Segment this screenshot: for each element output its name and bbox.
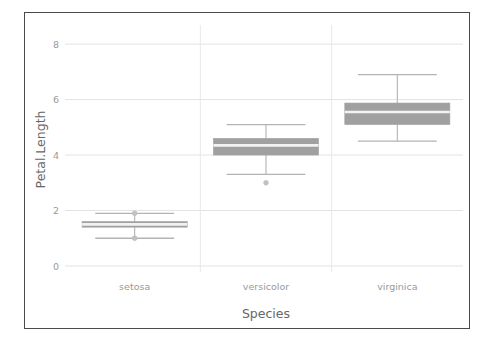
box-iqr (213, 138, 318, 155)
x-tick-label-setosa: setosa (119, 281, 150, 292)
x-tick-label-versicolor: versicolor (243, 281, 289, 292)
y-tick-label: 4 (53, 150, 59, 161)
box-group-setosa (82, 211, 187, 241)
outlier-point (132, 211, 137, 216)
x-tick-label-virginica: virginica (377, 281, 417, 292)
outlier-point (264, 180, 269, 185)
box-group-versicolor (213, 125, 318, 186)
y-tick-label: 2 (53, 205, 59, 216)
box-iqr (345, 103, 450, 124)
y-axis-title: Petal.Length (33, 111, 48, 189)
figure-frame: 02468Petal.Lengthsetosaversicolorvirgini… (24, 12, 470, 329)
y-tick-label: 0 (53, 261, 59, 272)
y-tick-label: 6 (53, 94, 59, 105)
outlier-point (132, 236, 137, 241)
boxplot-chart: 02468Petal.Lengthsetosaversicolorvirgini… (25, 13, 471, 330)
box-group-virginica (345, 75, 450, 142)
x-axis-title: Species (242, 306, 290, 321)
plot-area: 02468Petal.Lengthsetosaversicolorvirgini… (25, 13, 471, 330)
y-tick-label: 8 (53, 39, 59, 50)
